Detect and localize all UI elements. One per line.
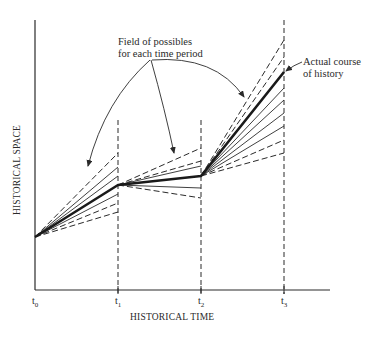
callout-arrow-period-1 — [88, 60, 150, 166]
time-period-dividers — [118, 20, 284, 294]
field-label-line-1: Field of possibles — [118, 36, 203, 48]
actual-course-callout-arrow — [286, 62, 302, 71]
field-of-possibles-label: Field of possibles for each time period — [118, 36, 203, 60]
actual-label-line-1: Actual course — [303, 56, 361, 68]
tick-label-t3: t3 — [281, 295, 287, 309]
field-label-line-2: for each time period — [118, 48, 203, 60]
actual-label-line-2: of history — [303, 68, 361, 80]
callout-arrow-period-3 — [152, 59, 244, 97]
x-axis-title: HISTORICAL TIME — [130, 312, 214, 322]
field-of-possibles-period-2 — [118, 148, 201, 198]
actual-course-of-history-line — [35, 72, 284, 237]
tick-label-t2: t2 — [198, 295, 204, 309]
tick-label-t0: t0 — [32, 295, 38, 309]
y-axis-title: HISTORICAL SPACE — [12, 125, 22, 215]
tick-label-t1: t1 — [115, 295, 121, 309]
callout-arrow-period-2 — [151, 60, 174, 153]
field-of-possibles-period-3 — [201, 40, 284, 176]
actual-course-label: Actual course of history — [303, 56, 361, 80]
field-of-possibles-period-1 — [35, 153, 118, 237]
